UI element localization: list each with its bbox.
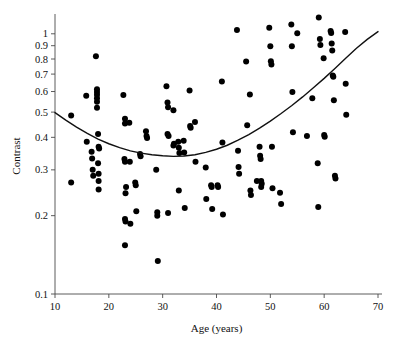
data-point: [94, 105, 100, 111]
y-tick-label: 0.2: [35, 210, 48, 221]
data-point: [96, 187, 102, 193]
data-point: [188, 125, 194, 131]
data-point: [235, 148, 241, 154]
data-point: [343, 81, 349, 87]
data-point: [269, 185, 275, 191]
data-point: [278, 201, 284, 207]
data-point: [209, 184, 215, 190]
data-point: [126, 120, 132, 126]
data-point: [123, 190, 129, 196]
data-point: [322, 134, 328, 140]
y-tick-label: 0.8: [35, 54, 48, 65]
data-point: [266, 25, 272, 31]
y-tick-label: 0.4: [35, 132, 49, 143]
data-point: [95, 160, 101, 166]
data-point: [144, 135, 150, 141]
data-point: [154, 213, 160, 219]
data-point: [215, 184, 221, 190]
x-tick-label: 20: [104, 301, 115, 312]
data-point: [315, 160, 321, 166]
axes: [55, 14, 382, 294]
data-point: [181, 138, 187, 144]
data-point: [321, 55, 327, 61]
data-point: [83, 93, 89, 99]
data-point: [209, 206, 215, 212]
data-point: [175, 139, 181, 145]
data-point: [68, 113, 74, 119]
data-point: [316, 15, 322, 21]
data-point: [244, 122, 250, 128]
data-point: [192, 119, 198, 125]
data-point: [93, 53, 99, 59]
data-point: [170, 143, 176, 149]
y-axis-title: Contrast: [10, 137, 22, 174]
data-point: [294, 30, 300, 36]
data-point: [234, 27, 240, 33]
x-tick-label: 50: [265, 301, 276, 312]
data-point: [219, 140, 225, 146]
data-point: [133, 182, 139, 188]
data-point: [332, 175, 338, 181]
data-point: [94, 99, 100, 105]
data-point: [248, 192, 254, 198]
data-point: [288, 22, 294, 28]
data-points: [68, 15, 349, 264]
data-point: [236, 171, 242, 177]
data-point: [268, 62, 274, 68]
data-point: [269, 144, 275, 150]
y-tick-label: 0.7: [35, 69, 48, 80]
y-tick-label: 0.3: [35, 164, 48, 175]
data-point: [187, 88, 193, 94]
data-point: [166, 133, 172, 139]
x-tick-label: 70: [373, 301, 384, 312]
data-point: [138, 153, 144, 159]
data-point: [236, 164, 242, 170]
data-point: [290, 129, 296, 135]
data-point: [243, 59, 249, 65]
x-tick-label: 40: [211, 301, 222, 312]
data-point: [165, 210, 171, 216]
scatter-plot-figure: 0.10.20.30.40.50.60.70.80.91 10203040506…: [0, 0, 402, 354]
data-point: [127, 159, 133, 165]
data-point: [315, 204, 321, 210]
data-point: [176, 187, 182, 193]
data-point: [317, 36, 323, 42]
data-point: [90, 173, 96, 179]
data-point: [258, 184, 264, 190]
data-point: [329, 40, 335, 46]
data-point: [277, 190, 283, 196]
data-point: [84, 139, 90, 145]
data-point: [247, 91, 253, 97]
data-point: [133, 208, 139, 214]
y-tick-labels: 0.10.20.30.40.50.60.70.80.91: [35, 28, 49, 299]
data-point: [96, 146, 102, 152]
y-tick-label: 1: [43, 28, 48, 39]
data-point: [170, 107, 176, 113]
data-point: [317, 42, 323, 48]
data-point: [267, 43, 273, 49]
data-point: [257, 144, 263, 150]
data-point: [90, 167, 96, 173]
data-point: [220, 212, 226, 218]
data-point: [123, 184, 129, 190]
data-point: [96, 171, 102, 177]
y-tick-label: 0.6: [35, 86, 48, 97]
data-point: [155, 258, 161, 264]
data-point: [181, 149, 187, 155]
x-tick-label: 10: [50, 301, 61, 312]
x-axis-title: Age (years): [191, 322, 243, 335]
data-point: [96, 178, 102, 184]
data-point: [343, 112, 349, 118]
data-point: [89, 155, 95, 161]
data-point: [219, 79, 225, 85]
x-tick-labels: 10203040506070: [50, 301, 384, 312]
data-point: [203, 196, 209, 202]
x-tick-label: 60: [319, 301, 330, 312]
data-point: [258, 156, 264, 162]
data-point: [193, 159, 199, 165]
data-point: [127, 221, 133, 227]
data-point: [328, 30, 334, 36]
data-point: [163, 83, 169, 89]
data-point: [329, 48, 335, 54]
data-point: [289, 89, 295, 95]
